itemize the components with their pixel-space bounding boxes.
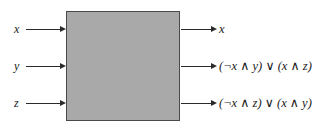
arrow-right-icon [211, 63, 217, 69]
arrow-right-icon [60, 63, 66, 69]
arrow-right-icon [60, 26, 66, 32]
input-wire-2 [26, 66, 62, 67]
input-wire-1 [26, 29, 62, 30]
output-label-2: (¬x ∧ y) ∨ (x ∧ z) [219, 60, 312, 73]
arrow-right-icon [211, 100, 217, 106]
block-diagram: x y z x (¬x ∧ y) ∨ (x ∧ z) (¬x ∧ z) ∨ (x… [0, 0, 335, 128]
output-wire-2 [181, 66, 213, 67]
input-wire-3 [26, 103, 62, 104]
output-label-3: (¬x ∧ z) ∨ (x ∧ y) [219, 97, 312, 110]
input-label-1: x [14, 23, 19, 35]
output-label-1: x [219, 23, 225, 36]
output-expression-3: (¬x ∧ z) ∨ (x ∧ y) [219, 96, 312, 110]
input-label-3: z [14, 97, 19, 109]
arrow-right-icon [60, 100, 66, 106]
component-box [66, 11, 180, 121]
output-wire-1 [181, 29, 213, 30]
output-wire-3 [181, 103, 213, 104]
input-label-2: y [14, 60, 19, 72]
arrow-right-icon [211, 26, 217, 32]
output-expression-1: x [219, 22, 225, 36]
output-expression-2: (¬x ∧ y) ∨ (x ∧ z) [219, 59, 312, 73]
